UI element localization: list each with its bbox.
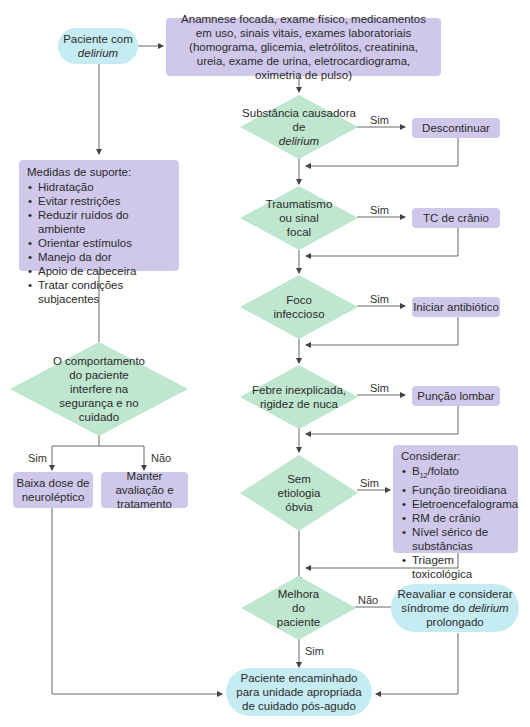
reevaluate-text-italic: delirium <box>468 602 508 614</box>
decision-improvement-diamond: Melhora do paciente <box>241 576 356 640</box>
yes-label: Sim <box>370 382 389 394</box>
low-dose-neuroleptic-text: Baixa dose de neuroléptico <box>13 476 93 504</box>
decision-text: Traumatismo ou sinal focal <box>266 197 333 239</box>
decision-no-etiology-diamond: Sem etiologia óbvia <box>240 455 358 531</box>
consider-item: Eletroencefalograma <box>401 497 510 511</box>
consider-item: RM de crânio <box>401 511 510 525</box>
consider-list: B12/folato Função tireoidiana Eletroence… <box>401 464 510 581</box>
yes-label: Sim <box>370 293 389 305</box>
reevaluate-node: Reavaliar e considerar síndrome do delir… <box>391 584 519 632</box>
consider-item: Função tireoidiana <box>401 483 510 497</box>
no-label: Não <box>358 594 378 606</box>
support-list: Hidratação Evitar restrições Reduzir ruí… <box>27 180 171 306</box>
support-item: Tratar condições subjacentes <box>27 278 171 306</box>
start-node-patient-with-delirium: Paciente comdelirium <box>58 28 138 64</box>
consider-box: Considerar: B12/folato Função tireoidian… <box>393 445 518 553</box>
assessment-box: Anamnese focada, exame físico, medicamen… <box>166 18 441 76</box>
consider-title: Considerar: <box>401 449 510 463</box>
behavior-decision-text: O comportamento do paciente interfere na… <box>50 354 148 424</box>
maintain-evaluation-box: Manter avaliação e tratamento <box>101 472 188 508</box>
behavior-no-label: Não <box>151 452 171 464</box>
consider-item: Triagem toxicológica <box>401 553 510 581</box>
lumbar-puncture-box: Punção lombar <box>412 386 500 406</box>
support-item: Evitar restrições <box>27 194 171 208</box>
decision-text: Substância causadora de <box>242 107 356 133</box>
yes-label: Sim <box>370 204 389 216</box>
support-item: Apoio de cabeceira <box>27 264 171 278</box>
figure-caption-partial <box>80 716 83 727</box>
action-text: Descontinuar <box>422 121 490 135</box>
action-text: Iniciar antibiótico <box>413 300 499 314</box>
ct-skull-box: TC de crânio <box>412 208 500 228</box>
end-node-referral: Paciente encaminhado para unidade apropr… <box>226 668 372 716</box>
decision-trauma-diamond: Traumatismo ou sinal focal <box>240 186 358 250</box>
consider-item: Nível sérico de substâncias <box>401 525 510 553</box>
decision-substance-diamond: Substância causadora dedelirium <box>240 95 358 159</box>
decision-text: Febre inexplicada, rigidez de nuca <box>252 383 346 411</box>
action-text: TC de crânio <box>423 211 489 225</box>
discontinue-box: Descontinuar <box>412 118 500 138</box>
start-text: Paciente com <box>63 33 133 45</box>
support-item: Reduzir ruídos do ambiente <box>27 208 171 236</box>
yes-label: Sim <box>370 114 389 126</box>
reevaluate-text-suffix: prolongado <box>426 616 484 628</box>
behavior-yes-label: Sim <box>28 452 47 464</box>
decision-text: Sem etiologia óbvia <box>276 472 322 514</box>
support-item: Hidratação <box>27 180 171 194</box>
consider-item-b12: B12/folato <box>401 464 510 483</box>
start-antibiotic-box: Iniciar antibiótico <box>412 297 500 317</box>
behavior-decision-diamond: O comportamento do paciente interfere na… <box>10 342 188 436</box>
decision-text: Foco infeccioso <box>273 293 324 321</box>
support-title: Medidas de suporte: <box>27 165 171 179</box>
decision-infection-diamond: Foco infeccioso <box>240 275 358 339</box>
decision-fever-diamond: Febre inexplicada, rigidez de nuca <box>240 365 358 429</box>
decision-text-italic: delirium <box>279 135 319 147</box>
maintain-evaluation-text: Manter avaliação e tratamento <box>101 469 188 511</box>
b12-rest: /folato <box>427 465 458 477</box>
yes-label: Sim <box>305 645 324 657</box>
b12-main: B <box>412 465 420 477</box>
end-text: Paciente encaminhado para unidade apropr… <box>236 671 362 713</box>
low-dose-neuroleptic-box: Baixa dose de neuroléptico <box>13 472 93 508</box>
support-measures-box: Medidas de suporte: Hidratação Evitar re… <box>19 160 179 271</box>
support-item: Orientar estímulos <box>27 236 171 250</box>
assessment-text: Anamnese focada, exame físico, medicamen… <box>174 12 433 82</box>
yes-label: Sim <box>360 477 379 489</box>
action-text: Punção lombar <box>417 389 494 403</box>
support-item: Manejo da dor <box>27 250 171 264</box>
decision-text: Melhora do paciente <box>271 587 326 629</box>
start-text-italic: delirium <box>78 47 118 59</box>
